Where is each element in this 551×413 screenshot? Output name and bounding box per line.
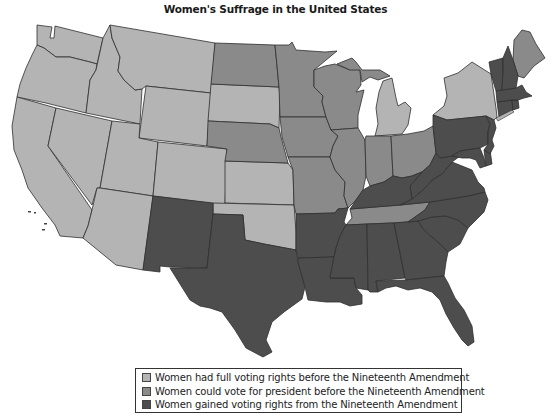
state-rhode-island (512, 100, 519, 110)
state-colorado (153, 142, 227, 205)
legend-item-president-rights: Women could vote for president before th… (142, 385, 461, 399)
state-north-dakota (211, 43, 279, 87)
legend-item-nineteenth-amendment: Women gained voting rights from the Nine… (142, 398, 461, 412)
legend-swatch-full (142, 373, 151, 382)
state-maine (513, 30, 545, 78)
map-legend: Women had full voting rights before the … (135, 368, 462, 413)
legend-swatch-president (142, 387, 151, 396)
state-new-york (433, 62, 497, 120)
legend-label: Women could vote for president before th… (155, 386, 485, 397)
state-wyoming (139, 86, 211, 146)
state-kansas (225, 161, 294, 205)
state-florida (376, 276, 474, 346)
state-new-mexico (143, 196, 213, 272)
channel-islands (28, 211, 47, 231)
legend-label: Women gained voting rights from the Nine… (155, 399, 458, 410)
legend-label: Women had full voting rights before the … (155, 372, 469, 383)
state-michigan (375, 78, 411, 136)
legend-item-full-rights: Women had full voting rights before the … (142, 371, 461, 385)
legend-swatch-nineteenth (142, 400, 151, 409)
